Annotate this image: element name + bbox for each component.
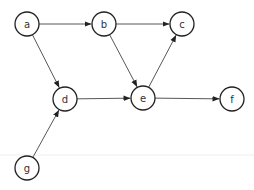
edge-g-to-d	[33, 110, 59, 158]
node-label: e	[140, 93, 146, 104]
node-e: e	[131, 86, 155, 110]
edge-b-to-e	[110, 35, 138, 87]
node-label: a	[24, 19, 30, 30]
node-a: a	[15, 12, 39, 36]
edge-a-to-d	[32, 35, 59, 88]
graph-canvas: abcdefg	[0, 0, 254, 190]
node-d: d	[53, 87, 77, 111]
node-g: g	[15, 156, 39, 180]
edge-e-to-c	[149, 35, 177, 87]
node-label: b	[101, 19, 107, 30]
node-label: c	[179, 19, 185, 30]
edge-d-to-e	[77, 98, 131, 99]
edge-e-to-f	[155, 98, 220, 99]
node-b: b	[92, 12, 116, 36]
node-c: c	[170, 12, 194, 36]
node-f: f	[220, 87, 244, 111]
node-label: f	[230, 94, 234, 105]
node-label: g	[24, 163, 30, 174]
node-label: d	[62, 94, 68, 105]
